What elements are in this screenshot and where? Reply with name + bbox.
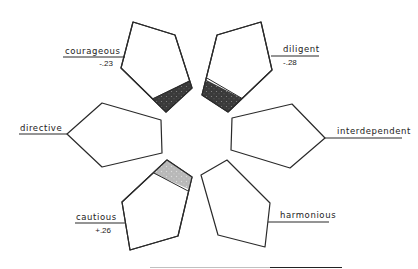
petal-interdependent: interdependent xyxy=(231,104,411,168)
value-cautious: +.26 xyxy=(95,226,111,235)
label-cautious: cautious xyxy=(76,212,117,222)
personality-profile-diagram: courageous -.23 diligent -.28 directive … xyxy=(0,0,418,269)
pentagon-harmonious xyxy=(201,160,270,247)
petal-harmonious: harmonious xyxy=(201,160,336,247)
pentagon-interdependent xyxy=(231,104,325,168)
value-courageous: -.23 xyxy=(99,59,113,68)
petal-directive: directive xyxy=(19,103,162,167)
label-harmonious: harmonious xyxy=(280,210,336,220)
label-courageous: courageous xyxy=(65,46,121,56)
petal-cautious: cautious +.26 xyxy=(75,150,200,250)
label-interdependent: interdependent xyxy=(337,126,411,136)
label-diligent: diligent xyxy=(283,44,320,54)
petal-diligent: diligent -.28 xyxy=(195,22,320,120)
pentagon-directive xyxy=(67,103,162,167)
value-diligent: -.28 xyxy=(283,58,297,67)
label-directive: directive xyxy=(20,123,62,133)
petal-courageous: courageous -.23 xyxy=(63,22,200,120)
